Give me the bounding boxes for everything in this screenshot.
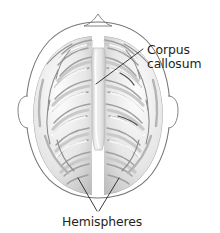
corpus-callosum	[91, 48, 105, 150]
longitudinal-fissure-group	[91, 36, 105, 196]
brain-diagram-figure: Corpus callosum Hemispheres	[0, 0, 220, 233]
label-corpus-callosum-line2: callosum	[147, 57, 201, 71]
label-corpus-callosum: Corpus callosum	[147, 43, 201, 70]
brain-illustration	[0, 0, 220, 233]
nose	[84, 14, 112, 26]
left-ear	[18, 96, 28, 128]
right-ear	[168, 96, 178, 128]
label-hemispheres: Hemispheres	[62, 215, 142, 229]
label-corpus-callosum-line1: Corpus	[147, 43, 201, 57]
